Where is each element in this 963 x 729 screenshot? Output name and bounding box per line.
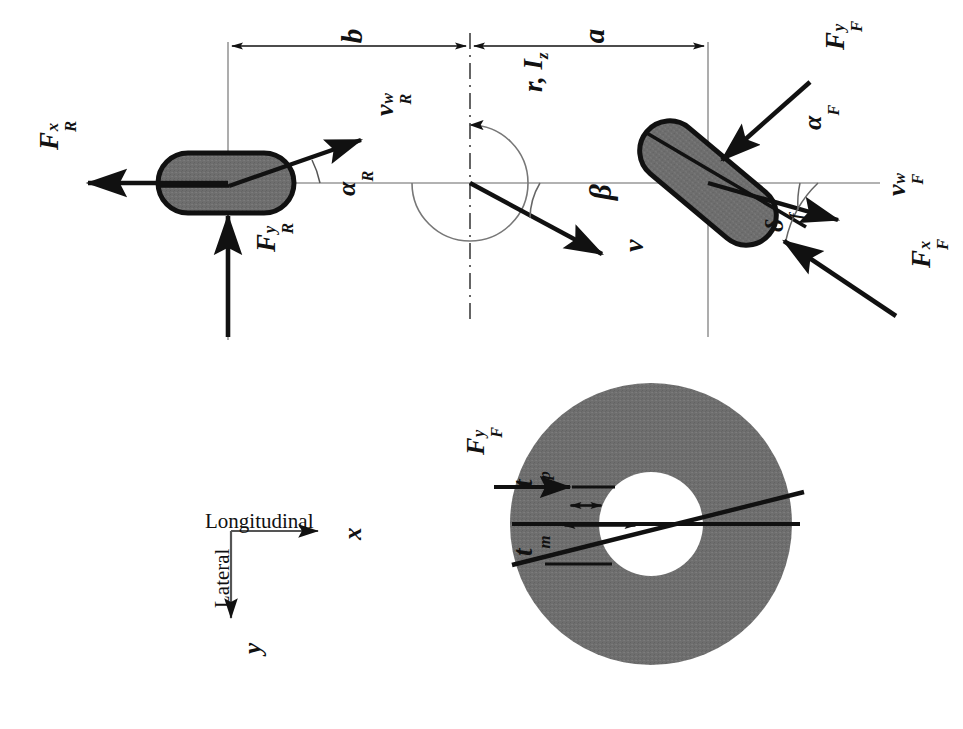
label-dimension-b: b [338, 29, 367, 44]
label-front-wheel-velocity: vwF [884, 168, 910, 196]
front-force-y-vector [722, 82, 810, 160]
beta-arc [530, 183, 540, 218]
coordinate-axes-legend [231, 531, 318, 618]
label-dimension-a: a [580, 29, 609, 44]
label-rear-wheel-velocity: vwR [372, 88, 398, 116]
label-pneumatic-trail: tp [510, 463, 537, 487]
label-rear-force-x: FxR [36, 115, 63, 150]
label-alpha-front: αF [800, 100, 826, 131]
label-lateral: Lateral [212, 549, 233, 608]
label-front-force-x: FxF [908, 233, 935, 268]
label-longitudinal: Longitudinal [205, 511, 314, 532]
label-tire-force-y: FyF [463, 422, 489, 455]
figure-root: b a r, Iz FxR FyR vwR αR β v [0, 0, 963, 729]
label-axis-x: x [340, 528, 365, 541]
label-alpha-rear: αR [334, 166, 360, 197]
label-body-velocity: v [620, 240, 648, 252]
tire-detail-graphic [494, 383, 804, 665]
label-mechanical-trail: tm [510, 532, 537, 556]
alpha-r-arc [312, 160, 320, 183]
label-beta-sideslip: β [585, 184, 616, 200]
label-yaw-rate-inertia: r, Iz [520, 52, 552, 92]
label-rear-force-y: FyR [253, 217, 280, 252]
label-front-force-y: FyF [822, 15, 849, 50]
front-force-x-vector [784, 241, 896, 316]
label-delta-steer: δf [762, 203, 788, 232]
label-axis-y: y [240, 643, 265, 654]
